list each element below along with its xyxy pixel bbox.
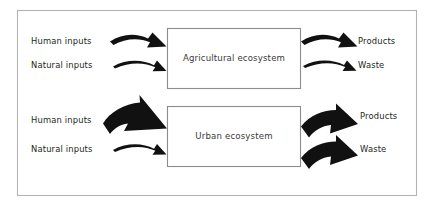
label-urban-products: Products (360, 112, 397, 120)
diagram-figure: Human inputs Natural inputs Agricultural… (0, 0, 430, 211)
label-urban-human-inputs: Human inputs (31, 116, 92, 124)
label-urban-natural-inputs: Natural inputs (31, 145, 93, 153)
label-urban-waste: Waste (360, 145, 386, 153)
label-agricultural-products: Products (358, 37, 395, 45)
label-urban-ecosystem: Urban ecosystem (168, 132, 300, 141)
label-agricultural-human-inputs: Human inputs (31, 37, 92, 45)
label-agricultural-waste: Waste (358, 61, 384, 69)
diagram-canvas (0, 0, 430, 211)
label-agricultural-ecosystem: Agricultural ecosystem (168, 54, 300, 63)
label-agricultural-natural-inputs: Natural inputs (31, 61, 93, 69)
